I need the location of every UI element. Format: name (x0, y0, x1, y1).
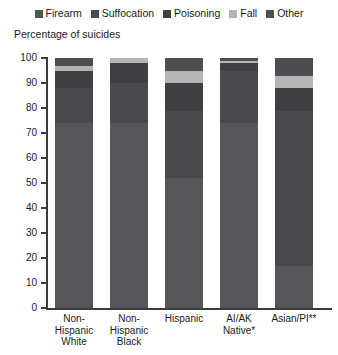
y-tick-label-70: 70 (26, 128, 37, 138)
x-axis-label-line: Black (96, 336, 162, 348)
bar-segment-suffocation[interactable] (220, 71, 258, 124)
y-tick-mark-100 (41, 57, 46, 59)
y-axis-line (46, 57, 48, 309)
bar-segment-suffocation[interactable] (110, 83, 148, 123)
bar-segment-firearm[interactable] (275, 266, 313, 309)
y-tick-label-0: 0 (31, 303, 37, 313)
y-tick-label-20: 20 (26, 253, 37, 263)
bar-segment-poisoning[interactable] (110, 63, 148, 83)
bar-segment-poisoning[interactable] (55, 71, 93, 89)
y-tick-label-80: 80 (26, 103, 37, 113)
y-tick-mark-20 (41, 257, 46, 259)
x-axis-line (46, 308, 332, 310)
y-tick-mark-30 (41, 232, 46, 234)
bar-0[interactable] (55, 58, 93, 308)
x-axis-label-line: Asian/PI** (261, 313, 327, 325)
bar-segment-poisoning[interactable] (165, 83, 203, 111)
y-tick-mark-80 (41, 107, 46, 109)
chart-plot-area: 0102030405060708090100 Non-HispanicWhite… (0, 0, 338, 355)
bar-segment-suffocation[interactable] (55, 88, 93, 123)
x-axis-label-4: Asian/PI** (261, 313, 327, 325)
bar-4[interactable] (275, 58, 313, 308)
bar-3[interactable] (220, 58, 258, 308)
bar-segment-suffocation[interactable] (275, 111, 313, 266)
y-tick-label-100: 100 (20, 53, 37, 63)
bar-segment-other[interactable] (165, 58, 203, 71)
bar-segment-firearm[interactable] (165, 178, 203, 308)
bar-segment-suffocation[interactable] (165, 111, 203, 179)
bar-segment-other[interactable] (275, 58, 313, 76)
x-axis-label-line: Hispanic (96, 325, 162, 337)
y-tick-label-90: 90 (26, 78, 37, 88)
y-tick-mark-40 (41, 207, 46, 209)
bar-segment-poisoning[interactable] (220, 63, 258, 71)
y-tick-mark-0 (41, 307, 46, 309)
x-axis-label-line: Native* (206, 325, 272, 337)
y-tick-label-30: 30 (26, 228, 37, 238)
bar-2[interactable] (165, 58, 203, 308)
y-tick-mark-50 (41, 182, 46, 184)
bar-segment-fall[interactable] (165, 71, 203, 84)
y-tick-label-40: 40 (26, 203, 37, 213)
y-tick-mark-10 (41, 282, 46, 284)
bar-segment-firearm[interactable] (55, 123, 93, 308)
y-tick-label-10: 10 (26, 278, 37, 288)
y-tick-label-60: 60 (26, 153, 37, 163)
bar-segment-other[interactable] (55, 58, 93, 66)
y-tick-mark-60 (41, 157, 46, 159)
bar-segment-firearm[interactable] (220, 123, 258, 308)
y-tick-mark-90 (41, 82, 46, 84)
y-tick-mark-70 (41, 132, 46, 134)
bar-segment-firearm[interactable] (110, 123, 148, 308)
bar-segment-poisoning[interactable] (275, 88, 313, 111)
y-tick-label-50: 50 (26, 178, 37, 188)
bar-1[interactable] (110, 58, 148, 308)
bar-segment-fall[interactable] (275, 76, 313, 89)
